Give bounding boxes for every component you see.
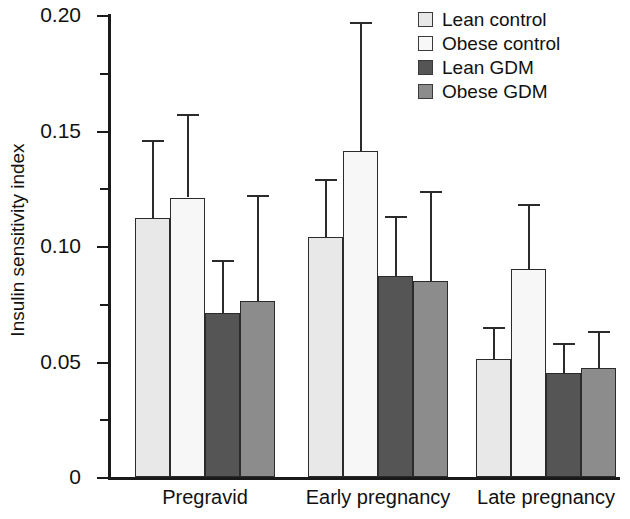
x-axis-group-label: Late pregnancy [477,486,615,509]
y-tick-major: 0.10 [97,246,108,248]
error-bar-line [395,216,397,276]
bar-chart-figure: Insulin sensitivity index 00.050.100.150… [0,0,630,519]
legend-label: Obese control [442,34,560,53]
y-axis-title: Insulin sensitivity index [0,0,36,480]
bar [581,368,616,477]
bar [135,218,170,477]
error-bar-line [493,327,495,359]
y-tick-minor [100,419,108,421]
error-bar-line [152,140,154,219]
x-axis-group-label: Early pregnancy [306,486,451,509]
error-bar-cap [247,195,269,197]
error-bar-cap [212,260,234,262]
legend-swatch [418,36,433,51]
x-axis-group-label: Pregravid [162,486,248,509]
y-tick-label: 0 [69,465,81,489]
error-bar-cap [553,343,575,345]
bar [205,313,240,477]
error-bar-cap [420,191,442,193]
bar [170,198,205,478]
y-tick-label: 0.05 [40,349,81,373]
bar [308,237,343,477]
error-bar-line [325,179,327,237]
legend-swatch [418,84,433,99]
chart-legend: Lean controlObese controlLean GDMObese G… [418,8,560,104]
y-tick-major: 0.05 [97,362,108,364]
error-bar-cap [177,114,199,116]
bar [343,151,378,477]
error-bar-cap [142,140,164,142]
error-bar-cap [483,327,505,329]
legend-item: Obese control [418,32,560,54]
error-bar-cap [385,216,407,218]
error-bar-line [430,191,432,281]
error-bar-cap [588,331,610,333]
x-axis-line [108,477,620,480]
error-bar-line [222,260,224,313]
y-tick-minor [100,304,108,306]
y-tick-label: 0.10 [40,234,81,258]
error-bar-cap [350,22,372,24]
y-tick-major: 0.20 [97,15,108,17]
error-bar-cap [315,179,337,181]
error-bar-line [187,114,189,197]
legend-label: Lean GDM [442,58,534,77]
error-bar-line [528,204,530,269]
legend-swatch [418,60,433,75]
error-bar-line [598,331,600,368]
legend-item: Obese GDM [418,80,560,102]
legend-label: Obese GDM [442,82,548,101]
bar [546,373,581,477]
legend-item: Lean control [418,8,560,30]
y-axis-title-text: Insulin sensitivity index [7,143,29,336]
legend-swatch [418,12,433,27]
legend-item: Lean GDM [418,56,560,78]
y-tick-major: 0.15 [97,131,108,133]
error-bar-line [257,195,259,301]
y-tick-label: 0.20 [40,3,81,27]
error-bar-line [563,343,565,373]
y-tick-label: 0.15 [40,118,81,142]
y-axis-line [108,14,111,478]
bar [511,269,546,477]
y-tick-minor [100,73,108,75]
y-tick-minor [100,188,108,190]
bar [240,301,275,477]
bar [476,359,511,477]
error-bar-cap [518,204,540,206]
bar [378,276,413,477]
error-bar-line [360,22,362,151]
legend-label: Lean control [442,10,547,29]
bar [413,281,448,477]
y-tick-major: 0 [97,477,108,479]
